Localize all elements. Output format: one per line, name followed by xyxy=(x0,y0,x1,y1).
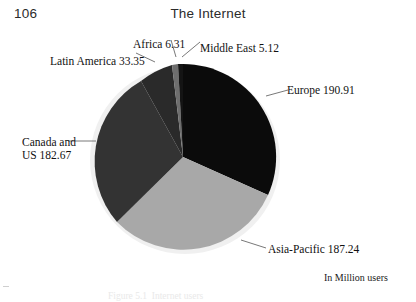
running-title: The Internet xyxy=(0,6,416,21)
page-canvas: 106 The Internet Afr xyxy=(0,0,416,302)
page-edge-mark xyxy=(3,286,9,287)
leader-line-asia-pacific xyxy=(241,240,266,248)
pie-label-asia-pacific: Asia-Pacific 187.24 xyxy=(268,243,359,256)
figure-caption: Figure 5.1 Internet users xyxy=(108,291,308,301)
pie-label-canada-us-line1: Canada and xyxy=(22,136,76,148)
pie-label-canada-us-line2: US 182.67 xyxy=(22,149,71,161)
pie-label-canada-us: Canada and US 182.67 xyxy=(22,136,100,162)
units-note: In Million users xyxy=(324,272,388,283)
pie-label-europe: Europe 190.91 xyxy=(287,84,355,97)
leader-line-europe xyxy=(266,90,288,96)
pie-label-africa: Africa 6.31 xyxy=(133,38,185,51)
pie-label-latin-america: Latin America 33.35 xyxy=(50,55,145,68)
pie-label-middle-east: Middle East 5.12 xyxy=(200,42,279,55)
